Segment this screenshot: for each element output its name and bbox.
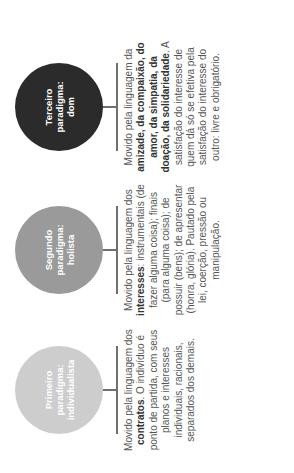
keyword-bold: amizade, da compaixão, do amor, da simpa… — [135, 42, 171, 172]
paradigm-column-third: Terceiro paradigma: dom Movido pela ling… — [0, 32, 294, 182]
paradigm-title-third: Terceiro paradigma: dom — [43, 72, 76, 142]
paradigm-circle-first: Primeiro paradigma: individualista — [15, 346, 103, 434]
connector-stem — [103, 389, 117, 391]
paradigm-circle-third: Terceiro paradigma: dom — [15, 63, 103, 151]
paradigm-column-first: Primeiro paradigma: individualista Movid… — [0, 315, 294, 465]
paradigm-description-first: Movido pela linguagem dos contratos. O i… — [123, 323, 197, 457]
paradigm-description-second: Movido pela linguagem dos interesses: in… — [123, 183, 222, 317]
connector-bar — [116, 346, 118, 434]
paradigm-column-second: Segundo paradigma: holista Movido pela l… — [0, 175, 294, 325]
connector-stem — [103, 249, 117, 251]
keyword-bold: contratos — [135, 399, 146, 445]
connector-bar — [116, 206, 118, 294]
paradigm-description-third: Movido pela linguagem da amizade, da com… — [123, 40, 222, 174]
paradigm-title-first: Primeiro paradigma: individualista — [43, 355, 76, 425]
paradigm-title-second: Segundo paradigma: holista — [43, 215, 76, 285]
keyword-bold: interesses — [135, 266, 146, 315]
paradigms-diagram: Primeiro paradigma: individualista Movid… — [0, 0, 294, 473]
paradigm-circle-second: Segundo paradigma: holista — [15, 206, 103, 294]
connector-bar — [116, 63, 118, 151]
connector-stem — [103, 106, 117, 108]
